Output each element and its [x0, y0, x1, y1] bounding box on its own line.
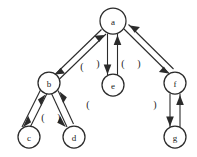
edge-a-f: [124, 25, 174, 74]
node-c-label: c: [27, 133, 31, 143]
edge-f-g-arrowhead-to-f: [176, 95, 184, 105]
edge-b-c-line-outbound: [22, 90, 41, 127]
node-a[interactable]: a: [100, 8, 126, 34]
node-f[interactable]: f: [164, 72, 186, 94]
edge-f-g-arrowhead-to-g: [166, 117, 174, 127]
node-d-label: d: [72, 133, 77, 143]
edge-a-e-arrowhead-to-a: [114, 35, 122, 45]
edge-marker: (: [86, 99, 90, 111]
edge-marker: ): [153, 99, 156, 111]
node-b[interactable]: b: [38, 72, 60, 94]
edge-a-e-arrowhead-to-e: [104, 65, 112, 75]
node-a-label: a: [111, 17, 115, 27]
edge-a-f-arrowhead-to-a: [129, 25, 140, 33]
edge-a-b: [55, 30, 106, 80]
edge-f-g: [166, 94, 184, 128]
edge-marker: (: [80, 61, 84, 73]
edge-marker: (: [121, 58, 125, 70]
node-f-label: f: [174, 79, 177, 89]
node-b-label: b: [47, 79, 52, 89]
edge-a-b-arrowhead-to-b: [55, 67, 65, 74]
edge-b-d: [52, 91, 74, 128]
node-e-label: e: [111, 81, 115, 91]
edge-b-c: [21, 90, 47, 131]
node-e[interactable]: e: [102, 74, 124, 96]
node-d[interactable]: d: [63, 126, 85, 148]
edge-marker: (: [41, 112, 45, 124]
edge-a-e: [104, 34, 122, 76]
node-c[interactable]: c: [18, 126, 40, 148]
edge-a-f-arrowhead-to-f: [159, 66, 169, 74]
edge-a-f-line-outbound: [124, 29, 169, 74]
edge-marker: ): [57, 112, 60, 124]
node-g[interactable]: g: [164, 126, 186, 148]
edge-a-b-line-outbound: [55, 30, 102, 75]
graph-diagram: ( ) ( ) ( ( ) ) a b c d e f: [0, 0, 197, 157]
edge-marker: ): [96, 58, 99, 70]
graph-canvas: ( ) ( ) ( ( ) ) a b c d e f: [0, 0, 197, 157]
edge-a-b-arrowhead-to-a: [94, 35, 105, 43]
edge-marker: ): [137, 58, 140, 70]
node-g-label: g: [173, 133, 178, 143]
